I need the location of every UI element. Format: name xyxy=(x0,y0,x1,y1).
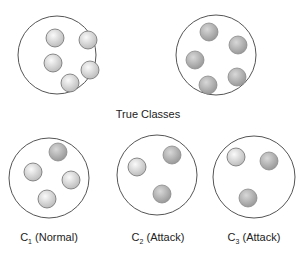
attack-sample-node xyxy=(239,189,257,207)
group-boundary-circle xyxy=(117,135,197,215)
attack-sample-node xyxy=(260,152,278,170)
true-class-normal xyxy=(18,16,99,94)
normal-sample-node xyxy=(38,190,56,208)
clustering-diagram: True Classes C1 (Normal)C2 (Attack)C3 (A… xyxy=(0,0,296,260)
attack-sample-node xyxy=(200,23,218,41)
normal-sample-node xyxy=(24,163,42,181)
normal-sample-node xyxy=(46,29,64,47)
attack-sample-node xyxy=(228,68,246,86)
attack-sample-node xyxy=(153,185,171,203)
cluster-c3 xyxy=(213,136,295,218)
cluster-c1-label: C1 (Normal) xyxy=(20,231,78,245)
normal-sample-node xyxy=(79,31,97,49)
true-class-attack xyxy=(176,15,256,95)
attack-sample-node xyxy=(186,51,204,69)
attack-sample-node xyxy=(49,143,67,161)
cluster-labels: C1 (Normal)C2 (Attack)C3 (Attack) xyxy=(20,231,280,245)
cluster-c1 xyxy=(9,138,89,218)
true-classes-label: True Classes xyxy=(116,108,181,120)
normal-sample-node xyxy=(227,148,245,166)
cluster-c3-label: C3 (Attack) xyxy=(228,231,281,245)
normal-sample-node xyxy=(44,54,62,72)
normal-sample-node xyxy=(61,74,79,92)
attack-sample-node xyxy=(229,36,247,54)
cluster-c2 xyxy=(117,135,197,215)
normal-sample-node xyxy=(128,158,146,176)
normal-sample-node xyxy=(81,61,99,79)
cluster-c2-label: C2 (Attack) xyxy=(132,231,185,245)
group-boundary-circle xyxy=(213,136,295,218)
normal-sample-node xyxy=(62,171,80,189)
attack-sample-node xyxy=(163,146,181,164)
attack-sample-node xyxy=(199,76,217,94)
